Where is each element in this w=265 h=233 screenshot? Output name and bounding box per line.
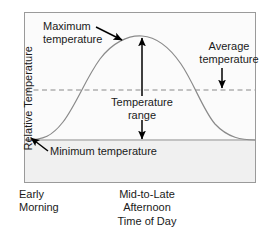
- x-tick-label-early-morning-line2: Morning: [19, 201, 59, 213]
- y-axis-title: Relative Temperature: [22, 23, 35, 173]
- x-tick-label-mid-to-late-afternoon: Mid-to-LateAfternoon: [103, 188, 191, 214]
- maximum-temperature-label-line2: temperature: [43, 33, 102, 45]
- temperature-range-label-line2: range: [128, 109, 156, 121]
- maximum-temperature-label: Maximumtemperature: [43, 20, 102, 45]
- temperature-range-label-line1: Temperature: [111, 96, 173, 108]
- x-tick-label-early-morning-line1: Early: [19, 188, 44, 200]
- maximum-temperature-label-line1: Maximum: [43, 20, 91, 32]
- temperature-diagram: Maximumtemperature Averagetemperature Te…: [0, 0, 265, 233]
- temperature-range-label: Temperaturerange: [107, 96, 177, 121]
- average-temperature-label-line1: Average: [209, 40, 250, 52]
- minimum-temperature-label: Minimum temperature: [50, 145, 157, 158]
- x-tick-label-early-morning: EarlyMorning: [19, 188, 59, 214]
- x-tick-label-mid-to-late-afternoon-line2: Afternoon: [123, 201, 171, 213]
- average-temperature-label: Averagetemperature: [196, 40, 262, 65]
- x-tick-label-mid-to-late-afternoon-line1: Mid-to-Late: [119, 188, 175, 200]
- average-temperature-label-line2: temperature: [199, 53, 258, 65]
- x-axis-title: Time of Day: [103, 215, 191, 228]
